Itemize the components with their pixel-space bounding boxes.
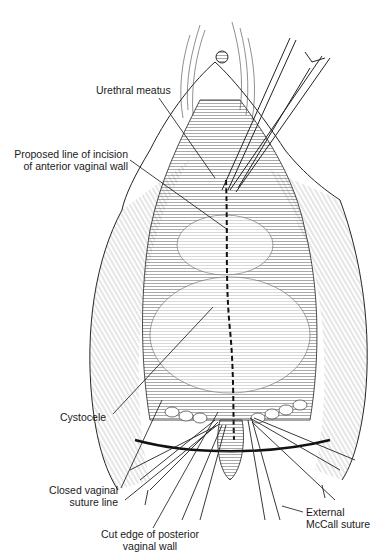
label-closed-vaginal-suture-line: Closed vaginal suture line — [40, 484, 118, 508]
label-external-mccall-suture: External McCall suture — [306, 506, 370, 530]
clitoris — [216, 51, 228, 63]
label-cut-edge-line1: Cut edge of posterior — [95, 528, 205, 540]
label-cut-edge-line2: vaginal wall — [95, 540, 205, 552]
leader-mccall — [282, 506, 303, 512]
label-proposed-incision: Proposed line of incision of anterior va… — [6, 148, 128, 172]
label-mccall-line1: External — [306, 506, 370, 518]
label-cystocele: Cystocele — [60, 411, 106, 423]
label-incision-line2: of anterior vaginal wall — [6, 160, 128, 172]
label-urethral-meatus: Urethral meatus — [96, 84, 171, 96]
surgical-illustration — [0, 0, 385, 556]
label-incision-line1: Proposed line of incision — [6, 148, 128, 160]
cervix-stump — [218, 420, 244, 480]
label-closed-suture-line2: suture line — [40, 496, 118, 508]
urethral-bulge — [177, 215, 273, 275]
label-cut-edge-posterior-wall: Cut edge of posterior vaginal wall — [95, 528, 205, 552]
label-closed-suture-line1: Closed vaginal — [40, 484, 118, 496]
label-mccall-line2: McCall suture — [306, 518, 370, 530]
